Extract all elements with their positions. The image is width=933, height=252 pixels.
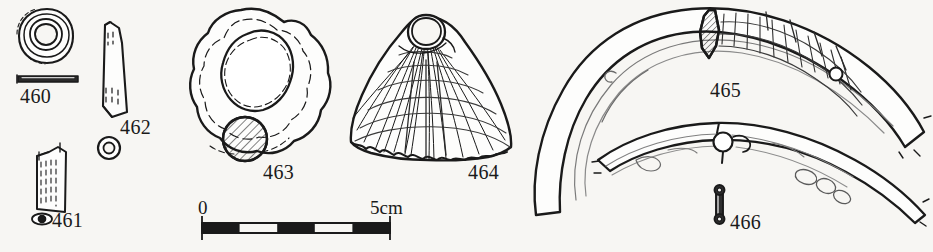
figure-462-drawing (98, 22, 127, 159)
figure-label-462: 462 (120, 117, 151, 137)
figure-460-drawing (17, 9, 78, 83)
figure-label-463: 463 (263, 162, 294, 182)
figure-label-460: 460 (20, 86, 51, 106)
figure-label-464: 464 (468, 162, 499, 182)
scale-bar-drawing (202, 216, 390, 240)
scale-bar-end-label: 5cm (370, 198, 403, 217)
figure-label-466: 466 (730, 212, 761, 232)
figure-464-drawing (351, 15, 511, 160)
finds-illustration-plate: 460 461 462 463 464 465 466 0 5cm (0, 0, 933, 252)
figure-463-drawing (190, 9, 330, 161)
figure-label-465: 465 (710, 80, 741, 100)
figure-label-461: 461 (52, 210, 83, 230)
scale-bar-start-label: 0 (198, 198, 208, 217)
figure-466-drawing (715, 185, 725, 224)
